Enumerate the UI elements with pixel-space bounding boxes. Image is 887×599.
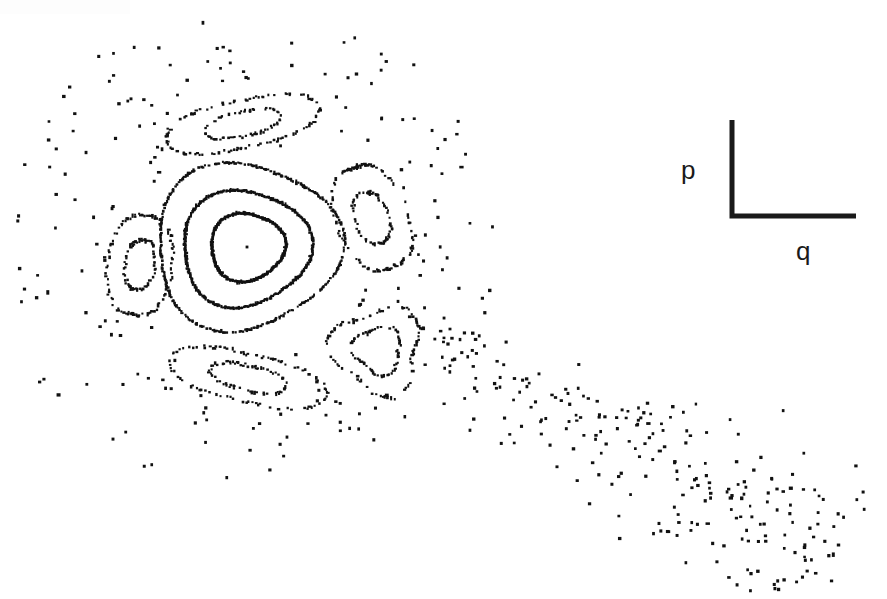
curve-sample (232, 360, 234, 363)
chaotic-orbit-point (591, 461, 594, 464)
chaotic-orbit-point (157, 46, 160, 49)
chaotic-orbit-point (729, 418, 732, 421)
curve-sample (334, 177, 337, 181)
chaotic-orbit-point (673, 506, 676, 509)
curve-sample (384, 175, 386, 177)
chaotic-orbit-point (430, 164, 433, 167)
curve-sample (356, 378, 359, 380)
chaotic-orbit-point (816, 523, 819, 526)
chaotic-orbit-point (143, 465, 146, 468)
chaotic-orbit-point (97, 55, 100, 58)
chaotic-orbit-point (643, 442, 646, 445)
curve-sample (199, 108, 202, 110)
chaotic-orbit-point (194, 421, 197, 424)
chaotic-orbit-point (153, 156, 156, 159)
chaotic-orbit-point (366, 139, 369, 142)
chaotic-orbit-point (837, 544, 840, 547)
curve-sample (372, 192, 375, 194)
chaotic-orbit-point (380, 117, 383, 120)
chaotic-orbit-point (439, 245, 442, 248)
curve-sample (376, 268, 378, 270)
chaotic-orbit-point (347, 76, 350, 79)
curve-sample (240, 162, 243, 164)
curve-sample (331, 330, 334, 333)
curve-sample (393, 263, 396, 266)
curve-sample (185, 316, 188, 318)
chaotic-orbit-point (359, 303, 362, 306)
curve-sample (392, 370, 394, 372)
curve-sample (236, 149, 239, 151)
chaotic-orbit-point (676, 478, 679, 481)
chaotic-orbit-point (459, 166, 463, 169)
curve-sample (344, 243, 346, 246)
chaotic-orbit-point (339, 421, 342, 424)
chaotic-orbit-point (801, 576, 804, 579)
curve-sample (204, 164, 206, 166)
curve-sample (326, 343, 328, 345)
curve-sample (233, 387, 235, 389)
chaotic-orbit-point (385, 394, 389, 397)
curve-sample (168, 131, 170, 134)
chaotic-orbit-point (446, 256, 449, 259)
curve-sample (151, 216, 153, 219)
curve-sample (303, 127, 305, 129)
chaotic-orbit-point (752, 468, 755, 471)
chaotic-orbit-point (662, 429, 665, 432)
curve-sample (179, 377, 181, 380)
curve-sample (383, 269, 385, 271)
chaotic-orbit-point (673, 460, 676, 464)
curve-sample (354, 218, 357, 220)
curve-sample (369, 315, 371, 318)
chaotic-orbit-point (441, 172, 444, 175)
curve-sample (292, 180, 294, 183)
curve-sample (281, 360, 283, 362)
curve-sample (297, 182, 299, 184)
chaotic-orbit-point (756, 570, 759, 573)
curve-sample (110, 243, 114, 246)
chaotic-orbit-point (449, 328, 452, 331)
chaotic-orbit-point (538, 372, 541, 375)
curve-sample (341, 256, 343, 258)
chaotic-orbit-point (282, 455, 285, 458)
curve-sample (284, 364, 286, 366)
chaotic-orbit-point (793, 551, 796, 554)
curve-sample (266, 169, 269, 171)
elliptic-fixed-point (246, 246, 249, 249)
chaotic-orbit-point (652, 432, 655, 435)
chaotic-orbit-point (424, 363, 427, 366)
chaotic-orbit-point (491, 225, 494, 228)
curve-sample (397, 354, 400, 358)
curve-sample (279, 137, 282, 139)
curve-sample (360, 235, 362, 237)
curve-sample (343, 232, 346, 234)
curve-sample (239, 330, 241, 333)
curve-sample (393, 364, 395, 366)
chaotic-orbit-point (693, 478, 696, 481)
curve-sample (245, 135, 247, 137)
chaotic-orbit-point (353, 36, 356, 39)
curve-sample (228, 113, 230, 116)
curve-sample (411, 313, 413, 315)
curve-sample (193, 112, 195, 115)
curve-sample (275, 372, 277, 374)
curve-sample (389, 217, 391, 219)
curve-sample (229, 362, 231, 364)
curve-sample (325, 201, 328, 203)
chaotic-orbit-point (629, 493, 632, 496)
curve-sample (390, 396, 392, 398)
chaotic-orbit-point (743, 493, 746, 496)
curve-sample (357, 358, 359, 360)
chaotic-orbit-point (776, 579, 779, 582)
chaotic-orbit-point (616, 427, 619, 430)
curve-sample (212, 138, 215, 140)
chaotic-orbit-point (268, 468, 271, 471)
curve-sample (223, 149, 225, 152)
chaotic-orbit-point (81, 269, 84, 272)
chaotic-orbit-point (333, 327, 336, 330)
curve-sample (357, 334, 359, 337)
curve-sample (409, 382, 412, 384)
curve-sample (108, 289, 110, 292)
curve-sample (168, 359, 170, 362)
phase-space-plot (0, 0, 887, 599)
curve-sample (387, 306, 390, 308)
